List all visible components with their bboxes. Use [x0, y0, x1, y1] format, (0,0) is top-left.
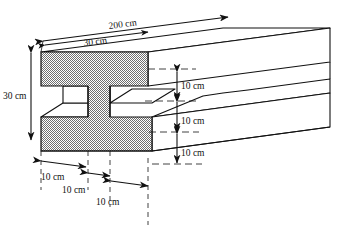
ibeam-isometric-diagram: 200 cm 30 cm 30 cm 10 cm 10 cm 10 cm 10 …	[0, 0, 345, 233]
dimension-height-30: 30 cm	[3, 53, 31, 140]
label-middle-segment-10cm: 10 cm	[62, 185, 86, 195]
dim-seg1-line	[41, 161, 86, 167]
right-notch-recess	[110, 89, 175, 103]
figure-canvas: 200 cm 30 cm 30 cm 10 cm 10 cm 10 cm 10 …	[0, 0, 345, 233]
dim-seg3-line	[111, 181, 148, 186]
dim-200-ext-left	[41, 41, 43, 52]
dim-seg2-line	[88, 173, 110, 176]
dimension-right-segment-10: 10 cm	[96, 158, 148, 225]
label-right-segment-10cm: 10 cm	[96, 197, 120, 207]
label-top-flange-10cm: 10 cm	[181, 81, 205, 91]
label-bottom-flange-10cm: 10 cm	[181, 148, 205, 158]
label-web-10cm: 10 cm	[181, 116, 205, 126]
label-height-30cm: 30 cm	[3, 91, 27, 101]
label-left-segment-10cm: 10 cm	[41, 172, 65, 182]
